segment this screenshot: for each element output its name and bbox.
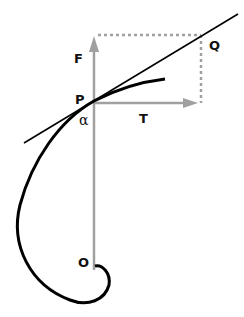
diagram-canvas: F Q P α T O <box>0 0 244 317</box>
label-p: P <box>75 92 85 107</box>
label-q: Q <box>209 38 220 53</box>
label-alpha: α <box>79 112 89 128</box>
force-arrowhead-icon <box>89 36 99 52</box>
label-t: T <box>139 111 148 126</box>
label-f: F <box>74 51 83 66</box>
tangent-arrowhead-icon <box>183 98 198 108</box>
label-o: O <box>78 255 89 270</box>
tangent-line <box>24 14 238 143</box>
